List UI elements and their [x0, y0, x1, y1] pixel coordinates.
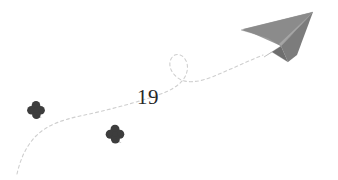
clover-right: [106, 125, 125, 144]
page-number: 19: [137, 87, 159, 108]
paper-airplane: [241, 12, 313, 62]
clover-left: [27, 101, 45, 119]
decorative-illustration: [0, 0, 338, 180]
dashed-flight-trail: [17, 55, 263, 175]
page-canvas: 19: [0, 0, 338, 180]
